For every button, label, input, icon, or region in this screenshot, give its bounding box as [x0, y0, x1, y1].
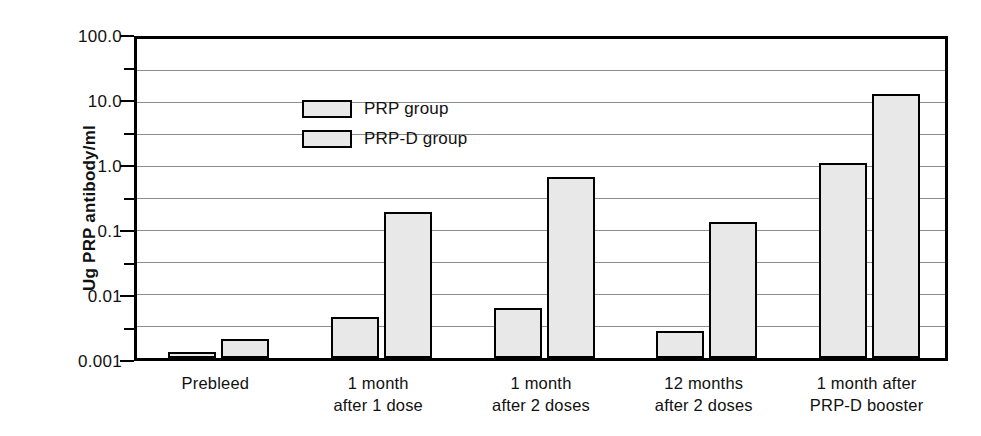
- legend-label: PRP-D group: [364, 129, 467, 149]
- bar: [656, 331, 704, 358]
- x-tick-label-line: after 1 dose: [333, 394, 423, 416]
- legend-swatch-icon: [302, 100, 352, 118]
- y-tick-mark-major: [120, 35, 134, 37]
- x-tick-label-line: 12 months: [655, 372, 753, 394]
- x-tick-label: 1 monthafter 2 doses: [492, 372, 590, 416]
- x-axis-tick-labels: Prebleed1 monthafter 1 dose1 monthafter …: [134, 372, 948, 432]
- bar: [819, 163, 867, 358]
- bar: [494, 308, 542, 358]
- bar: [384, 212, 432, 358]
- legend-item-prp: PRP group: [302, 94, 512, 124]
- legend-swatch-icon: [302, 130, 352, 148]
- y-tick-mark-minor: [124, 263, 134, 265]
- bar: [547, 177, 595, 358]
- x-tick-label-line: 1 month after: [810, 372, 924, 394]
- x-tick-label-line: after 2 doses: [655, 394, 753, 416]
- x-tick-label: 1 monthafter 1 dose: [333, 372, 423, 416]
- plot-area: PRP group PRP-D group: [134, 36, 948, 361]
- x-tick-label: 1 month afterPRP-D booster: [810, 372, 924, 416]
- bar: [168, 352, 216, 358]
- y-tick-mark-minor: [124, 328, 134, 330]
- y-tick-mark-major: [120, 165, 134, 167]
- x-tick-label: Prebleed: [182, 372, 250, 394]
- y-tick-mark-major: [120, 360, 134, 362]
- bar: [872, 94, 920, 359]
- bar-chart-figure: Ug PRP antibody/ml 100.010.01.00.10.010.…: [0, 0, 981, 436]
- y-tick-mark-major: [120, 295, 134, 297]
- bar: [221, 339, 269, 358]
- legend-label: PRP group: [364, 99, 449, 119]
- y-tick-mark-major: [120, 100, 134, 102]
- x-tick-label-line: PRP-D booster: [810, 394, 924, 416]
- legend: PRP group PRP-D group: [302, 94, 512, 154]
- x-tick-label-line: Prebleed: [182, 372, 250, 394]
- bar: [331, 317, 379, 358]
- legend-item-prp-d: PRP-D group: [302, 124, 512, 154]
- y-tick-mark-minor: [124, 133, 134, 135]
- bar: [709, 222, 757, 358]
- x-tick-label-line: 1 month: [333, 372, 423, 394]
- y-tick-mark-minor: [124, 68, 134, 70]
- y-tick-mark-major: [120, 230, 134, 232]
- x-tick-label-line: 1 month: [492, 372, 590, 394]
- bars-layer: [137, 39, 945, 358]
- y-tick-mark-minor: [124, 198, 134, 200]
- x-tick-label-line: after 2 doses: [492, 394, 590, 416]
- x-tick-label: 12 monthsafter 2 doses: [655, 372, 753, 416]
- plot-inner: [137, 39, 945, 358]
